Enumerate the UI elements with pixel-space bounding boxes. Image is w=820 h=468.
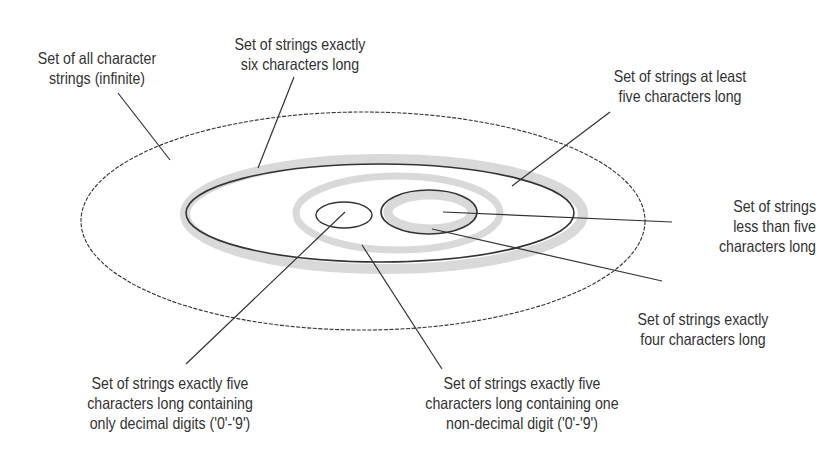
leader-all-strings [118,93,170,160]
label-six-chars: Set of strings exactly six characters lo… [214,34,386,74]
label-less-than-five: Set of strings less than five characters… [696,196,816,256]
leader-four-chars [432,229,662,281]
set-diagram: Set of all character strings (infinite) … [0,0,820,468]
leader-less-than-five [443,212,672,222]
label-four-chars: Set of strings exactly four characters l… [613,309,794,349]
label-at-least-five: Set of strings at least five characters … [594,66,766,106]
label-all-strings: Set of all character strings (infinite) [15,48,178,88]
leader-six-chars [258,77,294,168]
leader-five-digits [186,212,345,364]
label-five-one-nondigit: Set of strings exactly five characters l… [410,373,634,433]
four-chars-band [388,195,472,229]
leader-at-least-five [512,112,610,186]
five-digits-set [316,202,372,228]
label-five-digits: Set of strings exactly five characters l… [58,373,282,433]
